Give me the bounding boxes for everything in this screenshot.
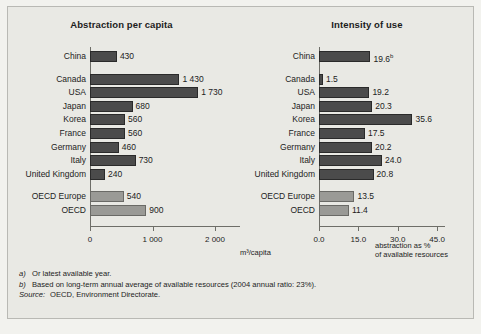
source-label: Source: [19, 290, 50, 301]
footnote-a-marker: a) [19, 269, 32, 280]
bar-value-label: 24.0 [385, 154, 402, 166]
bar [319, 101, 372, 112]
bar-value-label: 560 [128, 127, 142, 139]
bar-row-label: Korea [292, 113, 315, 125]
x-axis-line-right [319, 226, 445, 227]
bar-row-label: Italy [70, 154, 86, 166]
bar-row: France17.5 [319, 128, 445, 139]
x-tick [153, 227, 154, 231]
chart-abstraction-per-capita: Abstraction per capita 01 0002 000 China… [8, 7, 251, 257]
bar-row: Korea35.6 [319, 114, 445, 125]
bar-value-label: 19.6b [373, 50, 393, 65]
bar-value-label: 20.3 [375, 100, 392, 112]
bar-row: United Kingdom20.8 [319, 169, 445, 180]
source-text: OECD, Environment Directorate. [50, 290, 459, 301]
bar-row-label: France [289, 127, 315, 139]
bar [319, 51, 370, 62]
bar-value-label: 35.6 [415, 113, 432, 125]
bar-value-label: 560 [128, 113, 142, 125]
footnote-a-text: Or latest available year. [32, 269, 459, 280]
x-axis-caption-right-line1: abstraction as % [375, 241, 448, 250]
bar-row-label: China [64, 50, 86, 62]
x-tick-label: 15.0 [351, 235, 367, 244]
source-line: Source: OECD, Environment Directorate. [19, 290, 459, 301]
bar [90, 87, 198, 98]
bar [319, 155, 382, 166]
bar [90, 114, 125, 125]
bar-row: Canada1 430 [90, 74, 240, 85]
chart-title-right: Intensity of use [255, 19, 479, 30]
bar-row: Italy24.0 [319, 155, 445, 166]
bar-row: Japan20.3 [319, 101, 445, 112]
bar-value-label: 1.5 [326, 73, 338, 85]
bar-value-label: 20.2 [375, 141, 392, 153]
bar [319, 205, 349, 216]
bar-row: Korea560 [90, 114, 240, 125]
bar-row-label: Japan [63, 100, 86, 112]
bar [319, 114, 412, 125]
x-axis-caption-right: abstraction as % of available resources [375, 241, 448, 259]
bar-value-label: 11.4 [352, 204, 368, 216]
bar-value-label: 13.5 [357, 190, 374, 202]
x-tick-label: 1 000 [142, 235, 162, 244]
bar-row: China430 [90, 51, 240, 62]
bar-row-label: OECD [290, 204, 315, 216]
bar-row: United Kingdom240 [90, 169, 240, 180]
figure-panel: Abstraction per capita 01 0002 000 China… [7, 6, 474, 319]
bar-row: Japan680 [90, 101, 240, 112]
bar [90, 155, 136, 166]
plot-area-right: 0.015.030.045.0 China19.6bCanada1.5USA19… [319, 47, 445, 227]
chart-intensity-of-use: Intensity of use 0.015.030.045.0 China19… [251, 7, 475, 257]
bar-value-superscript: b [390, 53, 393, 59]
bar [90, 74, 179, 85]
bar-row-label: Japan [292, 100, 315, 112]
bar [90, 169, 105, 180]
x-tick [437, 227, 438, 231]
bar [90, 128, 125, 139]
bar [319, 191, 354, 202]
x-tick [215, 227, 216, 231]
footnotes: a) Or latest available year. b) Based on… [19, 269, 459, 301]
chart-title-left: Abstraction per capita [0, 19, 243, 30]
bar-row-label: United Kingdom [255, 168, 315, 180]
bar [319, 74, 323, 85]
bar [319, 87, 369, 98]
bar [319, 142, 372, 153]
footnote-a: a) Or latest available year. [19, 269, 459, 280]
footnote-b: b) Based on long-term annual average of … [19, 280, 459, 291]
bar-value-label: 19.2 [372, 86, 389, 98]
bar-row-label: Italy [299, 154, 315, 166]
bar-row-label: OECD Europe [32, 190, 86, 202]
x-axis-line-left [90, 226, 240, 227]
bar-row: OECD Europe13.5 [319, 191, 445, 202]
x-tick [90, 227, 91, 231]
bar-row-label: Germany [280, 141, 315, 153]
bar [319, 128, 365, 139]
bar-row: France560 [90, 128, 240, 139]
bar-value-label: 240 [108, 168, 122, 180]
bar-row-label: USA [69, 86, 86, 98]
bar-value-label: 17.5 [368, 127, 385, 139]
bar-row: Canada1.5 [319, 74, 445, 85]
x-tick-label: 0 [88, 235, 92, 244]
bar [90, 191, 124, 202]
bar-value-label: 460 [122, 141, 136, 153]
x-tick [358, 227, 359, 231]
bar-row: Germany460 [90, 142, 240, 153]
bar-value-label: 900 [149, 204, 163, 216]
bar-value-label: 1 430 [182, 73, 203, 85]
bar-row: USA1 730 [90, 87, 240, 98]
bar-row-label: Korea [63, 113, 86, 125]
bar [90, 51, 117, 62]
bar-value-label: 20.8 [377, 168, 394, 180]
footnote-b-text: Based on long-term annual average of ava… [32, 280, 459, 291]
bar [319, 169, 374, 180]
bar-value-label: 680 [136, 100, 150, 112]
x-tick [319, 227, 320, 231]
bar-value-label: 1 730 [201, 86, 222, 98]
x-tick [398, 227, 399, 231]
bar-row-label: United Kingdom [26, 168, 86, 180]
bar-row-label: Canada [285, 73, 315, 85]
bar-row-label: OECD [61, 204, 86, 216]
bar-row: OECD Europe540 [90, 191, 240, 202]
